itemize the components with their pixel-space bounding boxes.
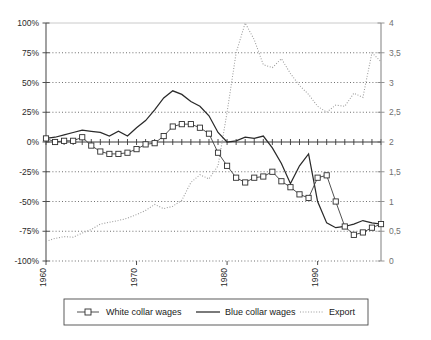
chart-container: 100%75%50%25%0%-25%-50%-75%-100% 43,532,… <box>0 0 431 340</box>
white-collar-wages-marker <box>261 174 266 179</box>
white-collar-wages-marker <box>71 138 76 143</box>
y-axis-left-tick-label: 0% <box>27 137 40 147</box>
y-axis-right-tick-label: 0,5 <box>389 226 401 236</box>
white-collar-wages-marker <box>315 175 320 180</box>
x-axis-labels: 1960197019801990 <box>38 268 320 287</box>
white-collar-wages-marker <box>152 141 157 146</box>
white-collar-wages-marker <box>206 131 211 136</box>
legend-label: Export <box>329 307 356 317</box>
series-blue-collar-wages <box>46 91 381 228</box>
white-collar-wages-marker <box>197 125 202 130</box>
white-collar-wages-marker <box>243 180 248 185</box>
white-collar-wages-marker <box>288 185 293 190</box>
white-collar-wages-marker <box>360 230 365 235</box>
white-collar-wages-marker <box>62 138 67 143</box>
series-white-collar-wages <box>43 122 383 238</box>
y-axis-left-labels: 100%75%50%25%0%-25%-50%-75%-100% <box>14 18 39 266</box>
y-axis-right-tick-label: 3,5 <box>389 48 401 58</box>
line-chart: 100%75%50%25%0%-25%-50%-75%-100% 43,532,… <box>0 0 431 340</box>
white-collar-wages-marker <box>297 192 302 197</box>
white-collar-wages-marker <box>333 199 338 204</box>
white-collar-wages-marker <box>369 225 374 230</box>
x-axis-tick-label: 1970 <box>129 268 139 287</box>
white-collar-wages-marker <box>306 195 311 200</box>
white-collar-wages-marker <box>215 150 220 155</box>
blue-collar-wages-line <box>46 91 381 228</box>
y-axis-left-tick-label: 50% <box>22 78 39 88</box>
white-collar-wages-marker <box>252 175 257 180</box>
y-axis-left-tick-label: 25% <box>22 107 39 117</box>
white-collar-wages-marker <box>179 122 184 127</box>
y-axis-right-tick-label: 1,5 <box>389 167 401 177</box>
white-collar-wages-marker <box>170 124 175 129</box>
white-collar-wages-marker <box>125 150 130 155</box>
y-axis-left-tick-label: 100% <box>17 18 39 28</box>
legend-marker-square <box>85 309 91 315</box>
chart-legend: White collar wagesBlue collar wagesExpor… <box>64 299 368 325</box>
white-collar-wages-line <box>46 124 381 235</box>
white-collar-wages-marker <box>98 149 103 154</box>
x-axis-tick-label: 1960 <box>38 268 48 287</box>
white-collar-wages-marker <box>161 133 166 138</box>
white-collar-wages-marker <box>116 151 121 156</box>
white-collar-wages-marker <box>52 139 57 144</box>
white-collar-wages-marker <box>80 135 85 140</box>
white-collar-wages-marker <box>134 147 139 152</box>
y-axis-left-tick-label: -75% <box>19 226 39 236</box>
y-axis-right-tick-label: 2 <box>389 137 394 147</box>
y-axis-right-tick-label: 3 <box>389 78 394 88</box>
white-collar-wages-marker <box>89 143 94 148</box>
y-axis-right-tick-label: 0 <box>389 256 394 266</box>
y-axis-right-labels: 43,532,521,510,50 <box>389 18 401 266</box>
y-axis-left-tick-label: -25% <box>19 167 39 177</box>
white-collar-wages-marker <box>351 232 356 237</box>
y-axis-left-tick-label: 75% <box>22 48 39 58</box>
white-collar-wages-marker <box>43 136 48 141</box>
y-axis-right-tick-label: 2,5 <box>389 107 401 117</box>
white-collar-wages-marker <box>270 169 275 174</box>
white-collar-wages-marker <box>378 222 383 227</box>
y-axis-left-tick-label: -100% <box>14 256 39 266</box>
white-collar-wages-marker <box>107 151 112 156</box>
x-axis-tick-label: 1990 <box>310 268 320 287</box>
y-axis-left-tick-label: -50% <box>19 197 39 207</box>
white-collar-wages-marker <box>188 122 193 127</box>
white-collar-wages-marker <box>143 142 148 147</box>
white-collar-wages-marker <box>234 175 239 180</box>
legend-label: White collar wages <box>106 307 182 317</box>
y-axis-right-tick-label: 1 <box>389 197 394 207</box>
legend-label: Blue collar wages <box>225 307 296 317</box>
x-axis-tick-label: 1980 <box>219 268 229 287</box>
white-collar-wages-marker <box>342 224 347 229</box>
white-collar-wages-marker <box>279 179 284 184</box>
white-collar-wages-marker <box>324 173 329 178</box>
white-collar-wages-marker <box>224 163 229 168</box>
y-axis-right-tick-label: 4 <box>389 18 394 28</box>
